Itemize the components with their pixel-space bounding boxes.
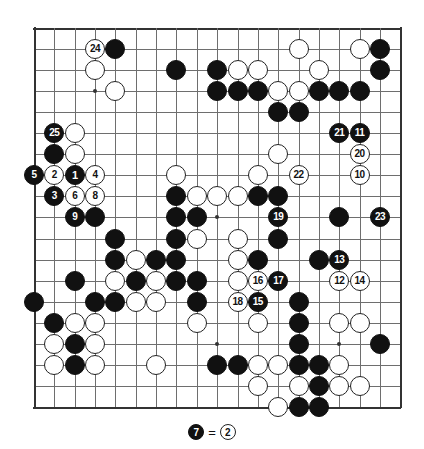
stone-white[interactable] <box>329 313 349 333</box>
stone-black-move-17[interactable]: 17 <box>268 271 288 291</box>
stone-white-move-16[interactable]: 16 <box>248 271 268 291</box>
stone-black[interactable] <box>207 60 227 80</box>
stone-black-move-3[interactable]: 3 <box>44 186 64 206</box>
stone-white-move-10[interactable]: 10 <box>350 165 370 185</box>
stone-white[interactable] <box>268 81 288 101</box>
stone-black[interactable] <box>329 207 349 227</box>
stone-white[interactable] <box>65 144 85 164</box>
stone-white-move-18[interactable]: 18 <box>228 292 248 312</box>
stone-white[interactable] <box>268 355 288 375</box>
stone-white[interactable] <box>146 355 166 375</box>
stone-black[interactable] <box>105 229 125 249</box>
stone-black[interactable] <box>370 334 390 354</box>
stone-black[interactable] <box>370 39 390 59</box>
stone-black-move-11[interactable]: 11 <box>350 123 370 143</box>
stone-black[interactable] <box>268 229 288 249</box>
stone-white[interactable] <box>350 313 370 333</box>
stone-white[interactable] <box>350 39 370 59</box>
stone-black[interactable] <box>248 250 268 270</box>
stone-white[interactable] <box>65 313 85 333</box>
stone-white[interactable] <box>228 186 248 206</box>
stone-black[interactable] <box>289 292 309 312</box>
stone-white-move-12[interactable]: 12 <box>329 271 349 291</box>
stone-white-move-14[interactable]: 14 <box>350 271 370 291</box>
stone-white[interactable] <box>207 186 227 206</box>
stone-black[interactable] <box>289 313 309 333</box>
stone-white[interactable] <box>228 271 248 291</box>
stone-white[interactable] <box>187 313 207 333</box>
stone-black[interactable] <box>166 250 186 270</box>
stone-black[interactable] <box>65 355 85 375</box>
stone-black[interactable] <box>289 102 309 122</box>
stone-white-move-2[interactable]: 2 <box>44 165 64 185</box>
stone-black[interactable] <box>309 376 329 396</box>
stone-white[interactable] <box>289 39 309 59</box>
stone-white[interactable] <box>289 81 309 101</box>
stone-white[interactable] <box>289 376 309 396</box>
stone-black-move-21[interactable]: 21 <box>329 123 349 143</box>
stone-black[interactable] <box>105 292 125 312</box>
stone-black[interactable] <box>126 271 146 291</box>
stone-white[interactable] <box>248 355 268 375</box>
stone-black-move-23[interactable]: 23 <box>370 207 390 227</box>
stone-white[interactable] <box>44 355 64 375</box>
stone-white[interactable] <box>166 165 186 185</box>
stone-black[interactable] <box>166 186 186 206</box>
stone-white[interactable] <box>65 123 85 143</box>
stone-black[interactable] <box>166 60 186 80</box>
stone-white[interactable] <box>248 313 268 333</box>
stone-black[interactable] <box>289 355 309 375</box>
stone-white[interactable] <box>105 271 125 291</box>
stone-white[interactable] <box>248 376 268 396</box>
stone-white[interactable] <box>126 250 146 270</box>
stone-black[interactable] <box>309 397 329 417</box>
stone-black[interactable] <box>329 81 349 101</box>
stone-black[interactable] <box>289 397 309 417</box>
stone-white[interactable] <box>329 355 349 375</box>
stone-black[interactable] <box>228 355 248 375</box>
stone-white[interactable] <box>187 186 207 206</box>
stone-black-move-5[interactable]: 5 <box>24 165 44 185</box>
stone-black-move-19[interactable]: 19 <box>268 207 288 227</box>
stone-black[interactable] <box>370 60 390 80</box>
stone-black[interactable] <box>44 144 64 164</box>
stone-black[interactable] <box>146 250 166 270</box>
stone-white-move-8[interactable]: 8 <box>85 186 105 206</box>
stone-white-move-20[interactable]: 20 <box>350 144 370 164</box>
stone-black[interactable] <box>105 250 125 270</box>
stone-black[interactable] <box>85 292 105 312</box>
stone-black[interactable] <box>309 81 329 101</box>
stone-black[interactable] <box>65 334 85 354</box>
stone-white[interactable] <box>228 229 248 249</box>
stone-black[interactable] <box>228 81 248 101</box>
stone-white[interactable] <box>85 334 105 354</box>
stone-white[interactable] <box>187 229 207 249</box>
stone-white[interactable] <box>146 292 166 312</box>
stone-white[interactable] <box>329 376 349 396</box>
stone-black[interactable] <box>65 271 85 291</box>
stone-white[interactable] <box>248 165 268 185</box>
stone-white[interactable] <box>350 376 370 396</box>
go-board[interactable]: 2425211120521422103689192313161712141815 <box>34 28 400 407</box>
stone-white[interactable] <box>268 144 288 164</box>
stone-white[interactable] <box>105 81 125 101</box>
stone-black[interactable] <box>309 250 329 270</box>
stone-black[interactable] <box>289 334 309 354</box>
stone-black[interactable] <box>187 271 207 291</box>
stone-black[interactable] <box>187 292 207 312</box>
stone-black-move-25[interactable]: 25 <box>44 123 64 143</box>
stone-black-move-1[interactable]: 1 <box>65 165 85 185</box>
stone-black-move-15[interactable]: 15 <box>248 292 268 312</box>
stone-black[interactable] <box>309 355 329 375</box>
stone-black[interactable] <box>207 355 227 375</box>
stone-white-move-6[interactable]: 6 <box>65 186 85 206</box>
stone-white[interactable] <box>228 250 248 270</box>
stone-black[interactable] <box>166 207 186 227</box>
stone-black[interactable] <box>350 81 370 101</box>
stone-black[interactable] <box>166 229 186 249</box>
stone-black[interactable] <box>166 271 186 291</box>
stone-black[interactable] <box>44 313 64 333</box>
stone-black[interactable] <box>268 102 288 122</box>
stone-black-move-9[interactable]: 9 <box>65 207 85 227</box>
stone-white-move-22[interactable]: 22 <box>289 165 309 185</box>
